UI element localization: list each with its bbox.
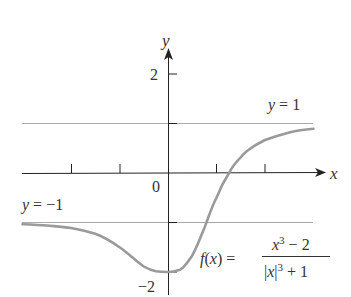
- formula-lhs: f(x) =: [200, 250, 235, 268]
- x-axis-label: x: [329, 164, 338, 183]
- y-axis-label: y: [160, 31, 170, 50]
- y-tick-label-2: 2: [150, 66, 158, 83]
- asymptote-label-upper: y = 1: [266, 96, 300, 114]
- origin-label: 0: [152, 178, 160, 195]
- asym-upper-rest: = 1: [275, 96, 300, 113]
- formula-denominator: |x|3 + 1: [264, 261, 308, 281]
- function-formula: f(x) = x3 − 2 |x|3 + 1: [200, 234, 330, 281]
- y-tick-label-neg2: −2: [138, 278, 155, 295]
- x-axis: [22, 173, 322, 174]
- asymptote-label-lower: y = −1: [20, 196, 63, 214]
- formula-numerator: x3 − 2: [271, 234, 310, 253]
- asym-lower-rest: = −1: [29, 196, 63, 213]
- graph-canvas: y x 0 2 −2 y = 1 y = −1 f(x) = x3 − 2 |x…: [0, 0, 351, 297]
